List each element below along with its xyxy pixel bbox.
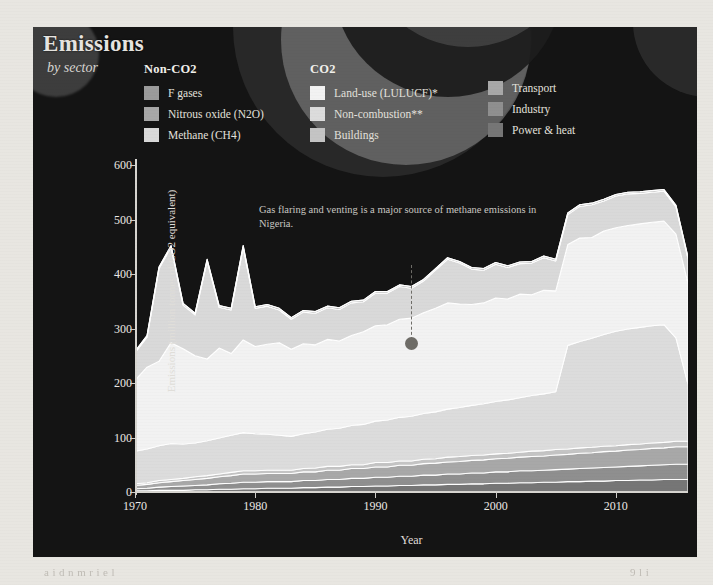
x-tick-label: 2000 bbox=[484, 499, 508, 514]
legend-swatch-power-heat bbox=[488, 123, 503, 137]
legend-label-land-use: Land-use (LULUCF)* bbox=[334, 87, 438, 99]
legend-item-power-heat[interactable]: Power & heat bbox=[488, 119, 575, 140]
legend-item-methane[interactable]: Methane (CH4) bbox=[144, 124, 264, 145]
x-tick-label: 1970 bbox=[123, 499, 147, 514]
decorative-circle bbox=[363, 27, 573, 47]
x-axis-line bbox=[135, 491, 688, 493]
legend-swatch-transport bbox=[488, 81, 503, 95]
legend-label-transport: Transport bbox=[512, 82, 556, 94]
legend-swatch-f-gases bbox=[144, 86, 159, 100]
legend-group-co2: CO2 Land-use (LULUCF)* Non-combustion** … bbox=[310, 62, 438, 145]
legend-label-methane: Methane (CH4) bbox=[168, 129, 241, 141]
y-tick-mark bbox=[130, 274, 135, 275]
legend-swatch-industry bbox=[488, 102, 503, 116]
legend-label-power-heat: Power & heat bbox=[512, 124, 575, 136]
y-tick-mark bbox=[130, 438, 135, 439]
legend-swatch-non-combustion bbox=[310, 107, 325, 121]
legend-item-transport[interactable]: Transport bbox=[488, 77, 575, 98]
legend-item-non-combustion[interactable]: Non-combustion** bbox=[310, 103, 438, 124]
x-tick-mark bbox=[135, 491, 136, 498]
decorative-circle bbox=[633, 27, 697, 97]
x-tick-label: 1990 bbox=[363, 499, 387, 514]
x-tick-mark bbox=[616, 491, 617, 498]
legend-item-industry[interactable]: Industry bbox=[488, 98, 575, 119]
page-subtitle: by sector bbox=[47, 60, 98, 76]
x-axis-label: Year bbox=[135, 533, 688, 548]
legend-label-f-gases: F gases bbox=[168, 87, 202, 99]
legend-group-co2-right: Transport Industry Power & heat bbox=[488, 77, 575, 140]
legend-swatch-land-use bbox=[310, 86, 325, 100]
plot-area: Emissions (million tonnes of CO2 equival… bbox=[135, 165, 688, 495]
chart-panel: Emissions by sector Non-CO2 F gases Nitr… bbox=[33, 27, 697, 557]
y-tick-mark bbox=[130, 383, 135, 384]
x-tick-label: 2010 bbox=[604, 499, 628, 514]
chart-annotation: Gas flaring and venting is a major sourc… bbox=[259, 203, 549, 231]
y-axis-line bbox=[135, 159, 137, 495]
legend-label-buildings: Buildings bbox=[334, 129, 379, 141]
x-tick-mark bbox=[255, 491, 256, 498]
legend-heading-non-co2: Non-CO2 bbox=[144, 62, 264, 77]
y-tick-mark bbox=[130, 165, 135, 166]
legend-swatch-nitrous-oxide bbox=[144, 107, 159, 121]
legend-item-land-use[interactable]: Land-use (LULUCF)* bbox=[310, 82, 438, 103]
page-title: Emissions bbox=[43, 31, 144, 57]
legend-swatch-buildings bbox=[310, 128, 325, 142]
legend-group-non-co2: Non-CO2 F gases Nitrous oxide (N2O) Meth… bbox=[144, 62, 264, 145]
page-root: Emissions by sector Non-CO2 F gases Nitr… bbox=[0, 0, 713, 585]
x-tick-mark bbox=[375, 491, 376, 498]
x-tick-label: 1980 bbox=[243, 499, 267, 514]
x-tick-mark bbox=[496, 491, 497, 498]
legend-label-non-combustion: Non-combustion** bbox=[334, 108, 423, 120]
ghost-text-right: 9 l i bbox=[630, 566, 649, 578]
legend-item-buildings[interactable]: Buildings bbox=[310, 124, 438, 145]
legend-label-industry: Industry bbox=[512, 103, 550, 115]
ghost-text-left: a i d n m r i e l bbox=[44, 566, 115, 578]
annotation-marker-dot bbox=[405, 337, 418, 350]
legend-label-nitrous-oxide: Nitrous oxide (N2O) bbox=[168, 108, 264, 120]
y-axis-label: Emissions (million tonnes of CO2 equival… bbox=[165, 171, 177, 411]
annotation-leader-line bbox=[411, 265, 412, 340]
legend-swatch-methane bbox=[144, 128, 159, 142]
legend-heading-co2: CO2 bbox=[310, 62, 438, 77]
y-tick-mark bbox=[130, 329, 135, 330]
legend-item-f-gases[interactable]: F gases bbox=[144, 82, 264, 103]
legend-item-nitrous-oxide[interactable]: Nitrous oxide (N2O) bbox=[144, 103, 264, 124]
y-tick-mark bbox=[130, 220, 135, 221]
